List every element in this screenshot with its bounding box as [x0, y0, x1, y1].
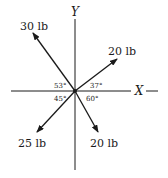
angle-labels: 53° 37° 45° 60°	[54, 82, 102, 103]
force-label-20lb-upper: 20 lb	[108, 45, 136, 58]
angle-label-37: 37°	[90, 82, 102, 90]
angle-label-45: 45°	[54, 95, 66, 103]
force-diagram: X Y 30 lb 20 lb 25 lb 20 lb 53° 37° 45° …	[0, 0, 168, 178]
force-label-30lb: 30 lb	[20, 20, 48, 33]
angle-label-60: 60°	[86, 95, 98, 103]
origin-point	[73, 89, 77, 93]
x-axis-label: X	[134, 84, 144, 98]
force-label-20lb-lower: 20 lb	[90, 137, 118, 150]
force-labels: 30 lb 20 lb 25 lb 20 lb	[18, 20, 136, 150]
angle-label-53: 53°	[54, 82, 66, 90]
y-axis-label: Y	[71, 5, 80, 19]
force-label-25lb: 25 lb	[18, 137, 46, 150]
